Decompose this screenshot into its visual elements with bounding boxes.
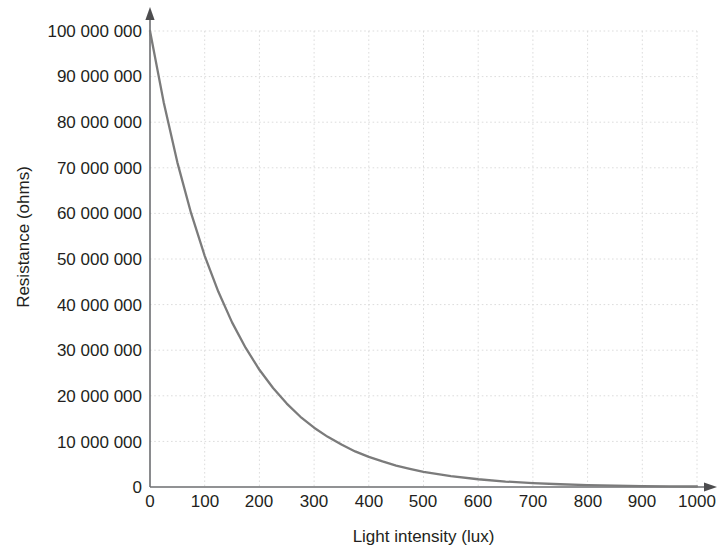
vertical-gridlines	[205, 31, 697, 487]
plot-area	[0, 0, 721, 560]
x-axis-arrow	[704, 482, 717, 491]
y-axis-arrow	[145, 7, 154, 20]
chart-container: 100 000 000 90 000 000 80 000 000 70 000…	[0, 0, 721, 560]
